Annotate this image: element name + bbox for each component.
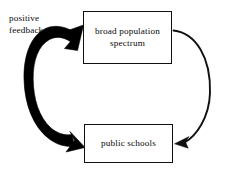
node-label-broad-population-spectrum: broad population spectrum: [92, 26, 163, 49]
thick-arrow-bottom-to-top: [24, 25, 85, 152]
thin-arrow-head: [175, 137, 190, 149]
node-broad-population-spectrum[interactable]: broad population spectrum: [83, 11, 172, 64]
annotation-positive-feedback: positive feedback: [9, 13, 43, 37]
node-public-schools[interactable]: public schools: [84, 124, 173, 163]
thin-arrow-top-to-bottom: [174, 31, 211, 149]
thin-arrow-curve-path: [174, 31, 211, 143]
node-label-public-schools: public schools: [98, 138, 159, 150]
feedback-loop-diagram: broad population spectrum public schools…: [0, 0, 235, 174]
